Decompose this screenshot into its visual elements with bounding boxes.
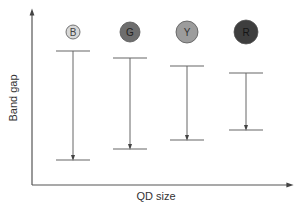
- qd-label: R: [242, 27, 249, 38]
- qd-label: G: [126, 27, 134, 38]
- band-gap-item-g: G: [113, 22, 147, 149]
- y-axis-label: Band gap: [7, 74, 19, 121]
- band-gap-item-y: Y: [170, 21, 204, 140]
- band-gap-diagram: Band gap QD size BGYR: [0, 0, 301, 210]
- qd-label: B: [70, 27, 77, 38]
- band-gap-item-b: B: [56, 25, 90, 160]
- band-gap-item-r: R: [229, 20, 263, 130]
- x-axis-label: QD size: [136, 190, 175, 202]
- qd-label: Y: [184, 27, 191, 38]
